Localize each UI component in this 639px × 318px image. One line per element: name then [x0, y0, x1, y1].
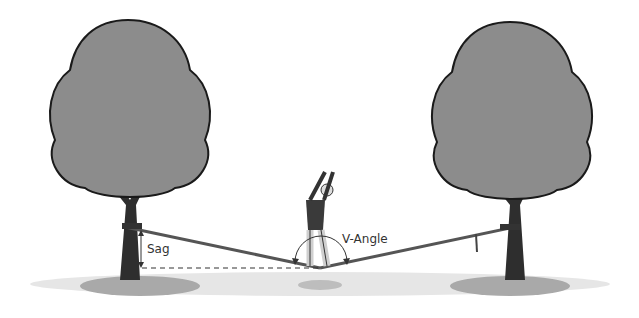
slackline-diagram [0, 0, 639, 318]
slackliner-figure [306, 172, 333, 266]
v-angle-label: V-Angle [342, 232, 388, 246]
sag-label: Sag [147, 242, 170, 256]
right-tree [432, 22, 592, 280]
sag-arrow-icon [138, 230, 144, 268]
